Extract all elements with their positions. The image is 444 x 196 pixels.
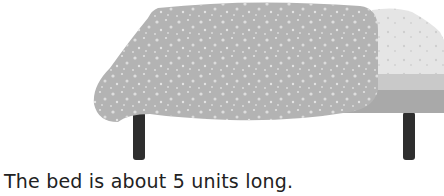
pillow [372, 8, 444, 74]
bed-illustration [0, 0, 444, 165]
bed-svg [0, 0, 444, 165]
caption-text: The bed is about 5 units long. [4, 170, 293, 192]
blanket [94, 2, 378, 122]
